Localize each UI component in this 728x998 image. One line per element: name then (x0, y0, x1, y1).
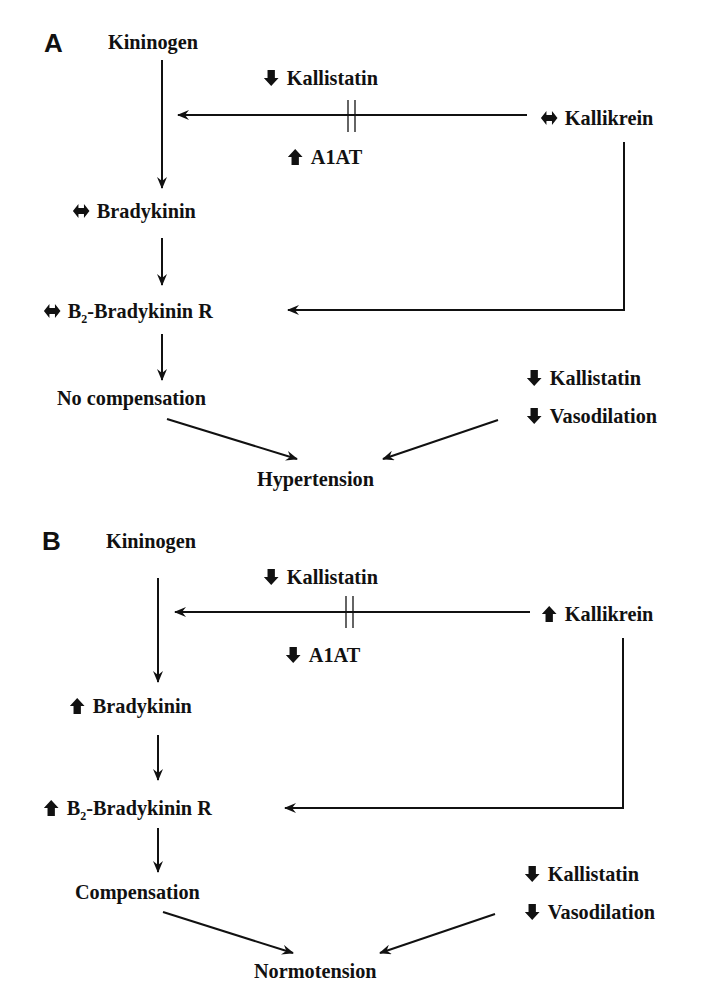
node-compensation: Compensation (75, 880, 200, 904)
kallikrein-kinin-pathway-diagram: A Kininogen Kallistatin A1AT Kallikrein … (0, 0, 728, 998)
node-kininogen: Kininogen (108, 30, 198, 54)
node-compensation: No compensation (57, 386, 206, 410)
node-label: Kallistatin (548, 862, 639, 886)
arrow-vasodilation-to-outcome (383, 420, 498, 459)
node-label: Kallistatin (287, 66, 378, 90)
up-arrow-icon (68, 696, 86, 716)
node-label: Normotension (254, 959, 377, 983)
node-kallikrein: Kallikrein (540, 106, 653, 130)
down-arrow-icon (523, 902, 541, 922)
node-label: Kininogen (106, 529, 196, 553)
node-kallistatin-inhibitor: Kallistatin (262, 565, 378, 589)
node-outcome: Hypertension (257, 467, 374, 491)
arrow-compensation-to-outcome (163, 912, 293, 953)
node-label: Kallikrein (565, 602, 653, 626)
down-arrow-icon (262, 567, 280, 587)
node-label: Bradykinin (93, 694, 192, 718)
node-a1at: A1AT (286, 145, 362, 169)
node-vasodilation: Vasodilation (525, 404, 657, 428)
up-arrow-icon (286, 147, 304, 167)
node-bradykinin: Bradykinin (72, 199, 196, 223)
node-kininogen: Kininogen (106, 529, 196, 553)
up-arrow-icon (540, 604, 558, 624)
left-right-arrow-icon (72, 201, 90, 221)
down-arrow-icon (284, 645, 302, 665)
panel-label-b: B (42, 528, 61, 554)
node-kallistatin-side: Kallistatin (523, 862, 639, 886)
node-label: Kininogen (108, 30, 198, 54)
panel-label-a: A (44, 30, 63, 56)
node-a1at: A1AT (284, 643, 360, 667)
arrow-vasodilation-to-outcome (380, 914, 495, 953)
node-b2-bradykinin-receptor: B2-Bradykinin R (42, 796, 212, 820)
node-label: B2-Bradykinin R (68, 299, 213, 323)
node-label: A1AT (309, 643, 360, 667)
node-label: Kallistatin (287, 565, 378, 589)
node-b2-bradykinin-receptor: B2-Bradykinin R (43, 299, 213, 323)
node-outcome: Normotension (254, 959, 377, 983)
node-label: Bradykinin (97, 199, 196, 223)
node-label: Compensation (75, 880, 200, 904)
down-arrow-icon (525, 406, 543, 426)
down-arrow-icon (523, 864, 541, 884)
down-arrow-icon (525, 368, 543, 388)
node-vasodilation: Vasodilation (523, 900, 655, 924)
node-kallistatin-side: Kallistatin (525, 366, 641, 390)
up-arrow-icon (42, 798, 60, 818)
node-kallistatin-inhibitor: Kallistatin (262, 66, 378, 90)
node-label: Vasodilation (550, 404, 657, 428)
node-label: Kallikrein (565, 106, 653, 130)
node-label: Vasodilation (548, 900, 655, 924)
node-bradykinin: Bradykinin (68, 694, 192, 718)
node-kallikrein: Kallikrein (540, 602, 653, 626)
left-right-arrow-icon (43, 301, 61, 321)
node-label: B2-Bradykinin R (67, 796, 212, 820)
left-right-arrow-icon (540, 108, 558, 128)
arrow-compensation-to-outcome (167, 419, 297, 459)
connector-lines (0, 0, 728, 998)
down-arrow-icon (262, 68, 280, 88)
node-label: No compensation (57, 386, 206, 410)
node-label: Kallistatin (550, 366, 641, 390)
node-label: A1AT (311, 145, 362, 169)
node-label: Hypertension (257, 467, 374, 491)
